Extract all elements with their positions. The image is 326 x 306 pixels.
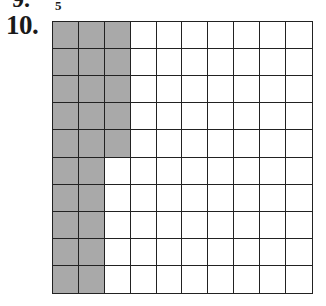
hundred-grid (52, 21, 313, 294)
grid-cell (234, 76, 260, 103)
grid-cell (208, 76, 234, 103)
grid-cell (234, 103, 260, 130)
grid-cell (234, 185, 260, 212)
grid-cell (208, 212, 234, 239)
grid-cell (234, 212, 260, 239)
grid-cell (131, 103, 157, 130)
grid-cell (208, 103, 234, 130)
grid-cell (234, 130, 260, 157)
grid-cell (286, 49, 312, 76)
grid-cell-shaded (53, 185, 79, 212)
grid-cell (234, 22, 260, 49)
grid-cell-shaded (53, 130, 79, 157)
grid-cell (208, 22, 234, 49)
grid-cell-shaded (53, 49, 79, 76)
grid-cell (157, 158, 183, 185)
grid-cell-shaded (105, 49, 131, 76)
grid-cell-shaded (79, 130, 105, 157)
grid-cell (286, 239, 312, 266)
grid-cell (157, 49, 183, 76)
grid-cell-shaded (53, 212, 79, 239)
grid-cell-shaded (53, 239, 79, 266)
grid-cell (131, 212, 157, 239)
grid-cell (260, 158, 286, 185)
grid-cell (286, 158, 312, 185)
grid-cell (260, 185, 286, 212)
grid-cell-shaded (53, 158, 79, 185)
grid-cell (182, 185, 208, 212)
grid-cell (234, 158, 260, 185)
grid-cell (286, 212, 312, 239)
grid-cell (286, 185, 312, 212)
grid-cell (105, 185, 131, 212)
grid-cell-shaded (105, 103, 131, 130)
grid-cell (208, 130, 234, 157)
grid-cell (157, 76, 183, 103)
grid-cell (105, 212, 131, 239)
grid-cell (286, 22, 312, 49)
grid-cell (208, 266, 234, 293)
grid-cell (131, 158, 157, 185)
grid-cell (157, 130, 183, 157)
grid-cell (208, 185, 234, 212)
grid-cell-shaded (79, 49, 105, 76)
grid-cell-shaded (53, 266, 79, 293)
grid-cell-shaded (79, 158, 105, 185)
grid-cell (131, 22, 157, 49)
grid-cell-shaded (79, 103, 105, 130)
grid-cell-shaded (105, 76, 131, 103)
grid-cell (286, 76, 312, 103)
grid-cell (208, 158, 234, 185)
grid-cell (182, 158, 208, 185)
grid-cell (260, 22, 286, 49)
grid-cell (157, 103, 183, 130)
grid-cell (260, 130, 286, 157)
grid-cell (260, 76, 286, 103)
previous-problem-fraction-denominator: 5 (55, 0, 62, 14)
grid-cell (157, 212, 183, 239)
grid-cell (131, 266, 157, 293)
grid-cell (157, 22, 183, 49)
grid-cell (105, 239, 131, 266)
grid-cell (208, 49, 234, 76)
grid-cell-shaded (79, 239, 105, 266)
grid-cell (182, 22, 208, 49)
grid-cell (182, 103, 208, 130)
grid-cell (182, 130, 208, 157)
grid-cell (157, 239, 183, 266)
grid-cell (105, 266, 131, 293)
grid-cell (131, 185, 157, 212)
grid-cell (157, 185, 183, 212)
grid-cell (208, 239, 234, 266)
grid-cell-shaded (79, 212, 105, 239)
grid-cell (260, 212, 286, 239)
grid-cell (182, 76, 208, 103)
grid-cell (260, 239, 286, 266)
grid-cell (131, 49, 157, 76)
grid-cell (131, 130, 157, 157)
grid-cell (260, 103, 286, 130)
grid-cell (131, 76, 157, 103)
grid-cell-shaded (79, 185, 105, 212)
grid-cell (157, 266, 183, 293)
grid-cell (131, 239, 157, 266)
grid-cell (182, 239, 208, 266)
grid-cell-shaded (79, 22, 105, 49)
grid-cell-shaded (105, 130, 131, 157)
grid-cell-shaded (53, 76, 79, 103)
grid-cell-shaded (105, 22, 131, 49)
grid-cell (182, 49, 208, 76)
grid-cell-shaded (79, 76, 105, 103)
grid-cell (182, 266, 208, 293)
grid-cell (286, 266, 312, 293)
grid-cell (286, 103, 312, 130)
grid-cell (234, 266, 260, 293)
grid-cell (105, 158, 131, 185)
grid-cell-shaded (53, 22, 79, 49)
grid-cell (286, 130, 312, 157)
grid-cell (260, 49, 286, 76)
grid-cell-shaded (79, 266, 105, 293)
grid-cell (260, 266, 286, 293)
grid-cell (182, 212, 208, 239)
grid-cell (234, 239, 260, 266)
